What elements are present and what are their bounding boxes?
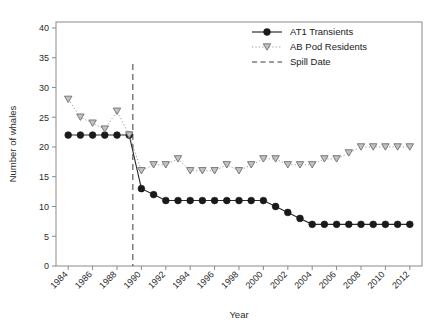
legend-marker-at1	[264, 29, 271, 36]
at1-data-point	[382, 221, 389, 228]
at1-data-point	[199, 197, 206, 204]
at1-data-point	[175, 197, 182, 204]
legend-label: AB Pod Residents	[290, 41, 367, 52]
y-tick-label: 30	[39, 83, 49, 93]
legend-label: AT1 Transients	[290, 26, 353, 37]
at1-data-point	[321, 221, 328, 228]
x-axis-label: Year	[229, 309, 248, 320]
at1-data-point	[309, 221, 316, 228]
y-tick-label: 10	[39, 202, 49, 212]
at1-data-point	[211, 197, 218, 204]
y-tick-label: 35	[39, 53, 49, 63]
at1-data-point	[150, 191, 157, 198]
at1-data-point	[394, 221, 401, 228]
at1-data-point	[358, 221, 365, 228]
at1-data-point	[138, 185, 145, 192]
at1-data-point	[284, 209, 291, 216]
at1-data-point	[345, 221, 352, 228]
y-tick-label: 15	[39, 172, 49, 182]
at1-data-point	[260, 197, 267, 204]
at1-data-point	[77, 132, 84, 139]
at1-data-point	[187, 197, 194, 204]
at1-data-point	[297, 215, 304, 222]
y-tick-label: 20	[39, 142, 49, 152]
legend-label: Spill Date	[290, 56, 331, 67]
y-tick-label: 40	[39, 23, 49, 33]
at1-data-point	[89, 132, 96, 139]
whale-population-chart: 0510152025303540 19841986198819901992199…	[0, 0, 433, 325]
at1-data-point	[406, 221, 413, 228]
at1-data-point	[236, 197, 243, 204]
at1-data-point	[333, 221, 340, 228]
at1-data-point	[272, 203, 279, 210]
at1-data-point	[223, 197, 230, 204]
y-tick-label: 5	[44, 232, 49, 242]
at1-data-point	[114, 132, 121, 139]
y-axis-label: Number of whales	[7, 105, 18, 182]
at1-data-point	[370, 221, 377, 228]
at1-data-point	[248, 197, 255, 204]
y-tick-label: 25	[39, 113, 49, 123]
at1-data-point	[65, 132, 72, 139]
y-tick-label: 0	[44, 261, 49, 271]
at1-data-point	[162, 197, 169, 204]
